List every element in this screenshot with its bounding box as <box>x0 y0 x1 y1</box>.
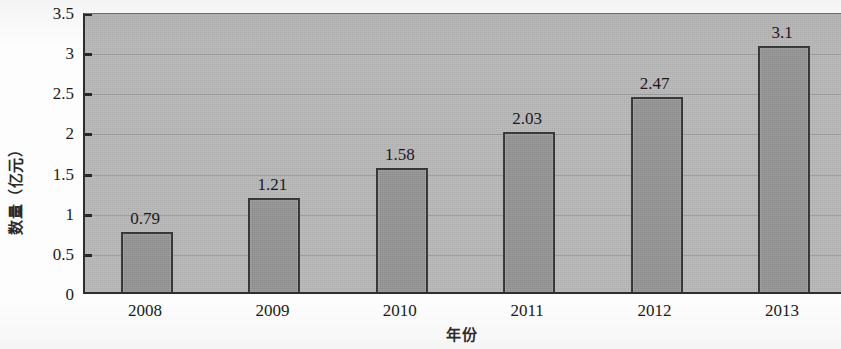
gridline <box>85 215 841 216</box>
bar-chart: 数量（亿元） 00.511.522.533.5 2008200920102011… <box>0 0 841 349</box>
y-axis-tickmark <box>85 214 92 217</box>
y-axis-tickmark <box>85 93 92 96</box>
bar <box>121 232 173 294</box>
bar-value-label: 3.1 <box>742 24 822 41</box>
y-axis-tickmark <box>85 13 92 16</box>
gridline <box>85 255 841 256</box>
y-axis-tick-label: 1.5 <box>24 166 74 183</box>
bar-value-label: 0.79 <box>105 210 185 227</box>
bar-value-label: 1.58 <box>360 146 440 163</box>
y-axis-tick-labels: 00.511.522.533.5 <box>24 0 74 349</box>
y-axis-tickmark <box>85 133 92 136</box>
y-axis-tick-label: 0 <box>24 286 74 303</box>
y-axis-tick-label: 3.5 <box>24 5 74 22</box>
y-axis-tick-label: 1 <box>24 206 74 223</box>
x-axis-title: 年份 <box>420 323 504 344</box>
y-axis-tick-label: 2 <box>24 125 74 142</box>
bar <box>376 168 428 294</box>
x-axis-tick-label: 2009 <box>232 302 312 319</box>
gridline <box>85 175 841 176</box>
gridline <box>85 134 841 135</box>
bar-value-label: 2.03 <box>487 110 567 127</box>
y-axis-tickmark <box>85 174 92 177</box>
bar <box>503 132 555 294</box>
y-axis-tickmark <box>85 53 92 56</box>
y-axis-tick-label: 0.5 <box>24 246 74 263</box>
x-axis-tick-label: 2010 <box>360 302 440 319</box>
x-axis-tick-label: 2012 <box>615 302 695 319</box>
bar <box>248 198 300 294</box>
bar <box>631 97 683 294</box>
y-axis-tick-label: 3 <box>24 45 74 62</box>
x-axis-tick-label: 2011 <box>487 302 567 319</box>
y-axis-tick-label: 2.5 <box>24 85 74 102</box>
plot-area <box>83 13 841 294</box>
x-axis-tick-label: 2008 <box>105 302 185 319</box>
x-axis-tick-label: 2013 <box>742 302 822 319</box>
y-axis-tickmark <box>85 254 92 257</box>
bar-value-label: 2.47 <box>615 75 695 92</box>
gridline <box>85 94 841 95</box>
bar-value-label: 1.21 <box>232 176 312 193</box>
gridline <box>85 54 841 55</box>
bar <box>758 46 810 294</box>
